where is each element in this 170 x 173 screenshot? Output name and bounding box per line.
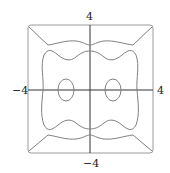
y-min-label: −4 [83,157,99,170]
x-min-label: −4 [12,84,28,97]
y-max-label: 4 [86,10,93,23]
x-max-label: 4 [157,84,164,97]
contour-plot: 4 −4 −4 4 [0,0,170,173]
